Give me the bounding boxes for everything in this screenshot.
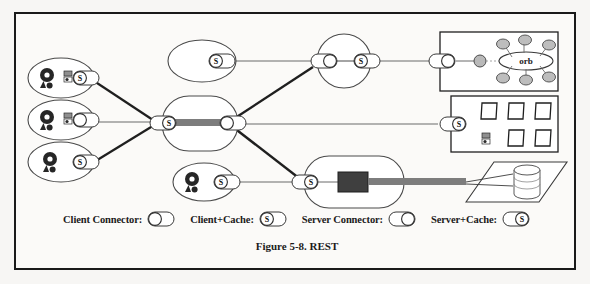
figure-caption: Figure 5-8. REST [16, 240, 578, 252]
server-connector-icon[interactable] [429, 54, 455, 68]
client-cache-icon[interactable] [73, 71, 99, 85]
gateway-node-top[interactable] [311, 34, 380, 88]
origin-server-documents[interactable] [440, 96, 558, 152]
server-connector-icon [387, 210, 417, 228]
server-cache-icon[interactable] [440, 117, 466, 131]
server-process-block [338, 172, 368, 192]
user-agent-icon [40, 110, 54, 131]
legend-item-server-cache: Server+Cache: [431, 210, 531, 228]
proxy-node-top[interactable] [168, 40, 236, 82]
legend-label-server-connector: Server Connector: [302, 214, 383, 225]
user-agent-icon [40, 68, 54, 89]
client-connector-icon[interactable] [220, 116, 246, 130]
link-gateway-topgateway [229, 67, 313, 122]
figure-border-frame: S S [14, 12, 576, 270]
link-gateway-bottomserver [229, 124, 304, 182]
legend-label-client-cache: Client+Cache: [190, 214, 254, 225]
legend-item-client-cache: Client+Cache: [190, 210, 288, 228]
client-cache-icon[interactable] [73, 155, 99, 169]
client-cache-icon[interactable] [209, 54, 235, 68]
document-icon [508, 130, 524, 146]
client-connector-icon[interactable] [73, 113, 99, 127]
database-cylinder-icon [514, 165, 540, 199]
legend-label-client-connector: Client Connector: [63, 214, 142, 225]
figure-page: S S [0, 0, 590, 284]
server-cache-icon[interactable] [292, 175, 318, 189]
gateway-node-center[interactable] [150, 96, 246, 151]
server-cache-icon[interactable] [150, 116, 176, 130]
server-cache-icon [501, 210, 531, 228]
orb-label: orb [519, 56, 533, 66]
legend-item-client-connector: Client Connector: [63, 210, 176, 228]
server-connector-icon[interactable] [311, 54, 337, 68]
client-connector-icon [146, 210, 176, 228]
origin-server-orb[interactable]: orb [429, 32, 558, 91]
client-node-3[interactable] [28, 142, 99, 182]
client-node-4[interactable] [173, 163, 240, 201]
client-node-1[interactable] [28, 58, 99, 98]
link-client3-gateway [94, 124, 156, 162]
link-client1-gateway [94, 81, 156, 122]
document-icon [481, 103, 497, 119]
document-icon [535, 103, 551, 119]
rest-architecture-diagram: S S [16, 14, 574, 268]
client-node-2[interactable] [28, 100, 99, 140]
database-node[interactable] [466, 162, 567, 202]
legend: Client Connector: Client+Cache: Server C… [16, 210, 578, 228]
user-agent-icon [43, 152, 57, 173]
origin-server-process[interactable] [292, 156, 466, 208]
database-thick-link [368, 178, 466, 185]
user-agent-icon [185, 172, 199, 193]
legend-label-server-cache: Server+Cache: [431, 214, 497, 225]
client-cache-icon [258, 210, 288, 228]
legend-item-server-connector: Server Connector: [302, 210, 417, 228]
client-cache-icon[interactable] [214, 175, 240, 189]
document-icon [535, 130, 551, 146]
document-icon [508, 103, 524, 119]
client-cache-icon[interactable] [354, 54, 380, 68]
